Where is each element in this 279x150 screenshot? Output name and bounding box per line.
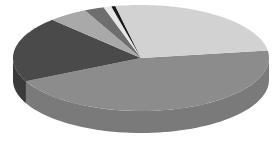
pie-slice <box>115 5 267 58</box>
pie-chart-3d <box>0 0 279 150</box>
pie-tops <box>13 5 269 111</box>
